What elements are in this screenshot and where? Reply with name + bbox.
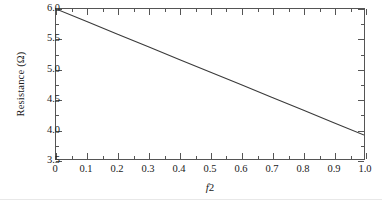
- y-axis-major-tick-right: [358, 9, 364, 10]
- x-axis-major-tick-top: [118, 9, 119, 15]
- y-axis-minor-tick-right: [361, 146, 364, 147]
- y-axis-major-tick-right: [358, 70, 364, 71]
- x-axis-minor-tick: [72, 156, 73, 159]
- x-axis-major-tick-top: [366, 9, 367, 15]
- y-axis-minor-tick-right: [361, 24, 364, 25]
- y-axis-minor-tick-right: [361, 85, 364, 86]
- y-axis-major-tick-right: [358, 100, 364, 101]
- x-axis-minor-tick-top: [165, 9, 166, 12]
- x-axis-major-tick-top: [87, 9, 88, 15]
- x-axis-major-tick: [273, 153, 274, 159]
- x-axis-title: f2: [55, 181, 365, 193]
- y-tick-label: 5.0: [20, 64, 60, 74]
- y-axis-major-tick-right: [358, 39, 364, 40]
- x-axis-major-tick: [242, 153, 243, 159]
- x-axis-major-tick: [211, 153, 212, 159]
- y-axis-minor-tick: [56, 55, 59, 56]
- x-axis-minor-tick: [134, 156, 135, 159]
- y-axis-minor-tick: [56, 85, 59, 86]
- x-axis-minor-tick-top: [258, 9, 259, 12]
- x-axis-minor-tick-top: [134, 9, 135, 12]
- y-tick-label: 4.5: [20, 94, 60, 104]
- x-axis-major-tick-top: [242, 9, 243, 15]
- x-axis-minor-tick: [351, 156, 352, 159]
- x-axis-major-tick-top: [273, 9, 274, 15]
- x-axis-major-tick: [180, 153, 181, 159]
- resistance-line: [56, 9, 364, 135]
- x-axis-minor-tick: [196, 156, 197, 159]
- x-axis-minor-tick-top: [196, 9, 197, 12]
- x-axis-minor-tick: [320, 156, 321, 159]
- chart-figure: Resistance (Ω) 6.0 5.5 5.0 4.5 4.0 3.5 0…: [0, 0, 382, 202]
- x-axis-major-tick: [118, 153, 119, 159]
- y-axis-major-tick-right: [358, 131, 364, 132]
- x-axis-minor-tick: [103, 156, 104, 159]
- x-axis-major-tick: [87, 153, 88, 159]
- x-axis-major-tick-top: [304, 9, 305, 15]
- page-edge-artifact: [0, 199, 382, 200]
- x-axis-minor-tick-top: [103, 9, 104, 12]
- x-axis-major-tick: [366, 153, 367, 159]
- x-axis-major-tick-top: [335, 9, 336, 15]
- x-tick-label: 1.0: [345, 163, 382, 174]
- x-axis-minor-tick-top: [289, 9, 290, 12]
- x-axis-minor-tick-top: [72, 9, 73, 12]
- y-axis-minor-tick: [56, 115, 59, 116]
- x-axis-major-tick: [304, 153, 305, 159]
- x-axis-major-tick: [149, 153, 150, 159]
- plot-area: [55, 8, 365, 160]
- y-axis-minor-tick-right: [361, 115, 364, 116]
- x-axis-minor-tick-top: [351, 9, 352, 12]
- x-axis-minor-tick: [226, 156, 227, 159]
- x-axis-minor-tick-top: [226, 9, 227, 12]
- y-axis-minor-tick: [56, 146, 59, 147]
- y-axis-title: Resistance (Ω): [14, 0, 28, 168]
- y-tick-label: 5.5: [20, 33, 60, 43]
- x-axis-major-tick-top: [211, 9, 212, 15]
- y-axis-minor-tick-right: [361, 55, 364, 56]
- line-series: [56, 9, 364, 159]
- x-axis-minor-tick: [165, 156, 166, 159]
- y-axis-major-tick-right: [358, 161, 364, 162]
- x-axis-minor-tick: [289, 156, 290, 159]
- x-axis-minor-tick: [258, 156, 259, 159]
- y-axis-minor-tick: [56, 24, 59, 25]
- x-axis-major-tick-top: [149, 9, 150, 15]
- y-tick-label: 6.0: [20, 3, 60, 13]
- x-axis-minor-tick-top: [320, 9, 321, 12]
- y-tick-label: 4.0: [20, 125, 60, 135]
- x-axis-major-tick: [335, 153, 336, 159]
- x-axis-major-tick-top: [180, 9, 181, 15]
- x-axis-title-rest: 2: [209, 181, 215, 193]
